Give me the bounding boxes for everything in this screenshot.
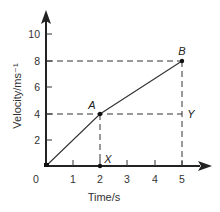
velocity-time-chart: 10 8 6 4 2 0 1 2 3 4 5 Time/s Velocity/m… <box>0 0 220 212</box>
x-tick-label-5: 5 <box>179 173 185 185</box>
x-tick-label-3: 3 <box>124 173 130 185</box>
point-a-marker <box>98 112 102 116</box>
dashed-guides <box>47 61 182 166</box>
origin-marker <box>44 163 49 167</box>
y-tick-label-4: 4 <box>34 108 40 120</box>
y-tick-label-2: 2 <box>34 134 40 146</box>
y-tick-label-8: 8 <box>34 55 40 67</box>
x-tick-label-0: 0 <box>33 173 39 185</box>
x-axis-arrow-icon <box>198 161 212 171</box>
y-tick-label-6: 6 <box>34 81 40 93</box>
x-axis-title: Time/s <box>88 191 121 203</box>
point-b-marker <box>180 59 184 63</box>
y-tick-label-10: 10 <box>28 28 40 40</box>
point-b-label: B <box>178 45 185 57</box>
x-tick-label-4: 4 <box>152 173 158 185</box>
point-x-label: X <box>103 153 112 165</box>
x-tick-label-2: 2 <box>97 173 103 185</box>
y-axis-title: Velocity/ms⁻¹ <box>11 63 23 129</box>
x-tick-label-1: 1 <box>70 173 76 185</box>
point-a-label: A <box>87 99 95 111</box>
point-x-marker <box>98 164 102 168</box>
point-y-label: Y <box>187 108 195 120</box>
